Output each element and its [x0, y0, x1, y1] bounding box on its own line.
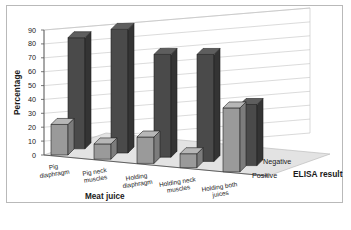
- series-label-positive: Positive: [252, 172, 277, 179]
- y-tick-label-60: 60: [22, 68, 36, 75]
- series-label-negative: Negative: [263, 158, 291, 165]
- bar-side: [171, 48, 177, 157]
- bar-face: [51, 124, 68, 155]
- bar-side: [128, 23, 134, 153]
- y-tick-label-50: 50: [22, 82, 36, 89]
- bar-positive-4: [223, 102, 246, 172]
- bar-side: [257, 98, 263, 165]
- bar-negative-3: [197, 48, 220, 161]
- y-tick-label-20: 20: [22, 124, 36, 131]
- y-tick-label-90: 90: [22, 27, 36, 34]
- bar-face: [180, 154, 197, 168]
- chart-figure: 90 80 70 60 50 40 30 20 10 0 Percentage …: [0, 0, 351, 230]
- y-tick-label-30: 30: [22, 110, 36, 117]
- bar-side: [240, 102, 246, 172]
- bar-face: [111, 29, 128, 153]
- bar-face: [137, 137, 154, 163]
- y-tick-label-0: 0: [22, 152, 36, 159]
- bar-side: [214, 48, 220, 161]
- bar-negative-1: [111, 23, 134, 153]
- bar-positive-1: [94, 138, 117, 159]
- bar-face: [223, 108, 240, 172]
- y-tick-label-10: 10: [22, 138, 36, 145]
- y-tick-label-40: 40: [22, 96, 36, 103]
- x-axis-title: Meat juice: [85, 193, 125, 201]
- bar-face: [197, 54, 214, 161]
- y-tick-label-80: 80: [22, 40, 36, 47]
- chart-plot-area: [0, 0, 351, 230]
- bar-face: [94, 144, 111, 159]
- z-axis-title: ELISA result: [293, 170, 343, 178]
- bar-positive-2: [137, 131, 160, 163]
- y-tick-label-70: 70: [22, 54, 36, 61]
- bar-side: [85, 32, 91, 149]
- y-axis-title: Percentage: [14, 70, 22, 115]
- bar-positive-0: [51, 118, 74, 155]
- bar-positive-3: [180, 148, 203, 168]
